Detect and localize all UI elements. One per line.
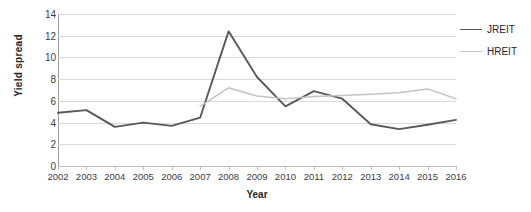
x-tick-label: 2006: [161, 171, 182, 182]
x-tick-label: 2009: [246, 171, 267, 182]
x-tick-mark: [172, 166, 173, 170]
x-tick-label: 2002: [47, 171, 68, 182]
y-tick-label: 12: [45, 30, 56, 41]
x-tick-label: 2016: [445, 171, 466, 182]
y-axis-tick-labels: 02468101214: [30, 14, 56, 166]
legend-item-hreit[interactable]: HREIT: [460, 40, 530, 62]
legend-label: JREIT: [487, 24, 515, 35]
x-tick-label: 2003: [76, 171, 97, 182]
x-tick-label: 2015: [417, 171, 438, 182]
x-axis-ticks: [58, 166, 456, 170]
legend-line-swatch: [460, 29, 482, 30]
x-tick-mark: [399, 166, 400, 170]
x-tick-mark: [86, 166, 87, 170]
plot-area: [58, 14, 456, 166]
chart-figure: Yield spread 02468101214 200220032004200…: [0, 0, 531, 212]
y-tick-label: 0: [50, 161, 56, 172]
legend-item-jreit[interactable]: JREIT: [460, 18, 530, 40]
x-tick-label: 2012: [332, 171, 353, 182]
x-tick-label: 2011: [304, 171, 324, 182]
series-line-hreit: [200, 88, 456, 106]
y-tick-label: 4: [50, 117, 56, 128]
x-tick-mark: [371, 166, 372, 170]
x-tick-mark: [115, 166, 116, 170]
x-tick-mark: [285, 166, 286, 170]
y-axis-title: Yield spread: [13, 16, 24, 116]
y-tick-label: 10: [45, 52, 56, 63]
x-tick-label: 2013: [360, 171, 381, 182]
x-tick-label: 2014: [389, 171, 410, 182]
x-axis-title: Year: [58, 189, 456, 200]
x-tick-label: 2008: [218, 171, 239, 182]
x-tick-mark: [229, 166, 230, 170]
legend-line-swatch: [460, 51, 482, 52]
x-tick-mark: [58, 166, 59, 170]
x-tick-mark: [428, 166, 429, 170]
legend-label: HREIT: [487, 46, 517, 57]
series-lines: [58, 14, 456, 166]
x-tick-mark: [314, 166, 315, 170]
x-tick-mark: [456, 166, 457, 170]
x-tick-mark: [342, 166, 343, 170]
y-tick-label: 6: [50, 95, 56, 106]
x-tick-mark: [143, 166, 144, 170]
x-tick-label: 2010: [275, 171, 296, 182]
y-tick-label: 8: [50, 74, 56, 85]
y-tick-label: 14: [45, 9, 56, 20]
y-tick-label: 2: [50, 139, 56, 150]
x-tick-mark: [200, 166, 201, 170]
x-axis-tick-labels: 2002200320042005200620072008200920102011…: [58, 171, 456, 185]
chart-legend: JREITHREIT: [460, 18, 530, 62]
x-tick-mark: [257, 166, 258, 170]
x-tick-label: 2005: [133, 171, 154, 182]
x-tick-label: 2004: [104, 171, 125, 182]
x-tick-label: 2007: [190, 171, 211, 182]
series-line-jreit: [58, 31, 456, 129]
